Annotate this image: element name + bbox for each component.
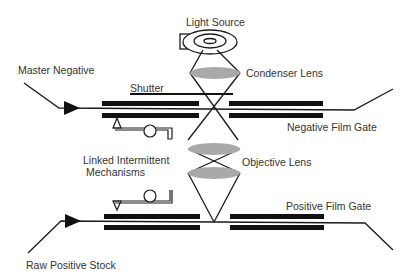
raw-positive-arrow-icon [65, 214, 81, 228]
objective-lens-lower-icon [188, 167, 240, 179]
linked-intermittent-label-line2: Mechanisms [86, 166, 145, 178]
lower-intermittent-mechanism-icon [113, 190, 172, 210]
objective-light-path [188, 149, 240, 222]
objective-lens-label: Objective Lens [242, 156, 311, 168]
objective-lens-upper-icon [188, 143, 240, 155]
negative-film-gate-label: Negative Film Gate [287, 121, 377, 133]
raw-positive-stock-label: Raw Positive Stock [26, 259, 116, 271]
master-negative-arrow-icon [64, 101, 80, 115]
condenser-lens-label: Condenser Lens [246, 67, 323, 79]
film-printer-diagram: Light Source Master Negative Shutter Con… [0, 0, 416, 275]
upper-intermittent-mechanism-icon [113, 118, 172, 139]
master-negative-label: Master Negative [18, 64, 94, 76]
shutter-label: Shutter [130, 82, 164, 94]
linked-intermittent-label-line1: Linked Intermittent [83, 154, 169, 166]
positive-film-gate-label: Positive Film Gate [286, 200, 371, 212]
raw-positive-film-path [28, 221, 393, 253]
light-source-icon [180, 30, 237, 54]
light-source-label: Light Source [186, 16, 245, 28]
condenser-lens-icon [190, 67, 240, 79]
diagram-graphics [0, 0, 416, 275]
master-negative-film-path [24, 83, 393, 110]
